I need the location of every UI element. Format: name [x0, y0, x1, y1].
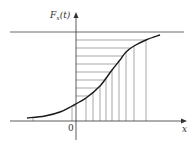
- cdf-diagram: Fx(t) 0 x: [0, 0, 196, 143]
- y-axis-label: Fx(t): [49, 10, 71, 21]
- origin-label: 0: [68, 123, 74, 133]
- x-axis-arrow-icon: [181, 119, 187, 124]
- hatch-lines: [33, 40, 146, 121]
- y-axis-arrow-icon: [74, 12, 79, 18]
- cdf-curve: [27, 35, 160, 118]
- x-axis-label: x: [182, 124, 187, 134]
